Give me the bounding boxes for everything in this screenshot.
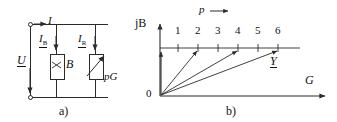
y-axis-label: jB [135, 17, 146, 29]
figure-root: I U IB IR B pG a) [0, 0, 337, 122]
tick-label-1: 1 [175, 25, 181, 36]
tick-label-6: 6 [275, 25, 281, 36]
parameter-label: p [199, 4, 205, 15]
x-axis-label: G [305, 74, 314, 86]
origin-label: 0 [146, 88, 152, 99]
locus-vector-label: Y [270, 55, 277, 68]
panel-b-drawing [0, 0, 337, 122]
panel-b-caption: b) [226, 104, 236, 119]
tick-label-3: 3 [215, 25, 221, 36]
tick-label-4: 4 [235, 25, 241, 36]
tick-label-2: 2 [195, 25, 201, 36]
panel-b-locus: 1 2 3 4 5 6 jB G 0 p Y b) [0, 0, 337, 122]
tick-label-5: 5 [255, 25, 261, 36]
